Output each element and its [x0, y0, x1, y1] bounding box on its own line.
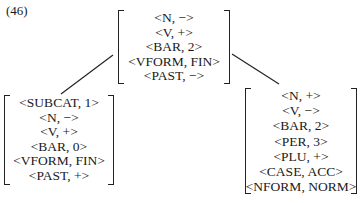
feature: <V, +> — [4, 125, 114, 140]
right-child-feature-matrix: <N, +> <V, −> <BAR, 2> <PER, 3> <PLU, +>… — [245, 88, 357, 194]
feature: <VFORM, FIN> — [4, 154, 114, 169]
feature: <PER, 3> — [245, 134, 357, 149]
edge-root-left — [61, 55, 113, 94]
feature: <NFORM, NORM> — [245, 179, 357, 194]
feature: <VFORM, FIN> — [118, 55, 230, 70]
feature: <V, −> — [245, 103, 357, 118]
left-child-feature-matrix: <SUBCAT, 1> <N, −> <V, +> <BAR, 0> <VFOR… — [4, 95, 114, 185]
right-bracket — [108, 95, 114, 185]
right-bracket — [224, 10, 230, 84]
feature: <PAST, −> — [118, 69, 230, 84]
edge-root-right — [232, 54, 279, 84]
feature: <V, +> — [118, 26, 230, 41]
feature: <N, −> — [4, 111, 114, 126]
feature: <BAR, 2> — [245, 118, 357, 133]
feature: <PLU, +> — [245, 149, 357, 164]
left-bracket — [245, 88, 251, 194]
feature: <BAR, 0> — [4, 140, 114, 155]
feature: <SUBCAT, 1> — [4, 96, 114, 111]
feature: <PAST, +> — [4, 169, 114, 184]
left-bracket — [118, 10, 124, 84]
feature: <CASE, ACC> — [245, 164, 357, 179]
root-feature-matrix: <N, −> <V, +> <BAR, 2> <VFORM, FIN> <PAS… — [118, 10, 230, 84]
feature: <N, −> — [118, 11, 230, 26]
left-bracket — [4, 95, 10, 185]
feature: <BAR, 2> — [118, 40, 230, 55]
feature: <N, +> — [245, 88, 357, 103]
right-bracket — [351, 88, 357, 194]
